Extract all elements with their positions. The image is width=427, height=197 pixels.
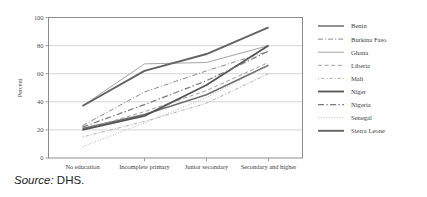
- x-category-label: No education: [65, 163, 100, 170]
- y-axis-title: Percent: [16, 78, 23, 97]
- y-tick-label: 80: [37, 42, 43, 49]
- x-axis-ticks: [145, 158, 269, 162]
- x-axis-category-labels: No educationIncomplete primaryJunior sec…: [65, 163, 297, 170]
- y-tick-label: 20: [37, 126, 43, 133]
- legend-label-burkina-faso: Burkina Faso: [351, 36, 387, 43]
- y-tick-label: 40: [37, 98, 43, 105]
- legend-label-senegal: Senegal: [351, 114, 372, 121]
- y-tick-label: 60: [37, 70, 43, 77]
- legend-label-ghana: Ghana: [351, 49, 368, 56]
- source-note-label: Source: [14, 174, 50, 186]
- plot-gridlines: [49, 18, 303, 130]
- source-note-separator: :: [50, 174, 53, 186]
- plot-frame: [49, 18, 303, 159]
- source-note: Source: DHS.: [14, 174, 84, 186]
- line-chart: 020406080100 No educationIncomplete prim…: [0, 0, 427, 197]
- legend-label-nigeria: Nigeria: [351, 101, 371, 108]
- x-category-label: Secondary and higher: [241, 163, 298, 170]
- legend-label-niger: Niger: [351, 88, 367, 95]
- chart-figure: 020406080100 No educationIncomplete prim…: [0, 0, 427, 197]
- series-line-senegal: [83, 65, 269, 146]
- x-category-label: Junior secondary: [185, 163, 229, 170]
- legend-label-benin: Benin: [351, 22, 367, 29]
- x-category-label: Incomplete primary: [119, 163, 170, 170]
- source-note-value: DHS.: [57, 174, 84, 186]
- y-axis-ticks: 020406080100: [34, 14, 49, 162]
- series-line-sierra-leone: [83, 27, 269, 106]
- legend: BeninBurkina FasoGhanaLiberiaMaliNigerNi…: [318, 22, 387, 134]
- series-line-ghana: [83, 46, 269, 106]
- legend-label-liberia: Liberia: [351, 62, 370, 69]
- legend-label-sierra-leone: Sierra Leone: [351, 127, 385, 134]
- plot-border: [49, 18, 303, 159]
- legend-label-mali: Mali: [351, 75, 364, 82]
- y-tick-label: 100: [34, 14, 44, 21]
- y-tick-label: 0: [40, 154, 43, 161]
- series-line-liberia: [83, 62, 269, 129]
